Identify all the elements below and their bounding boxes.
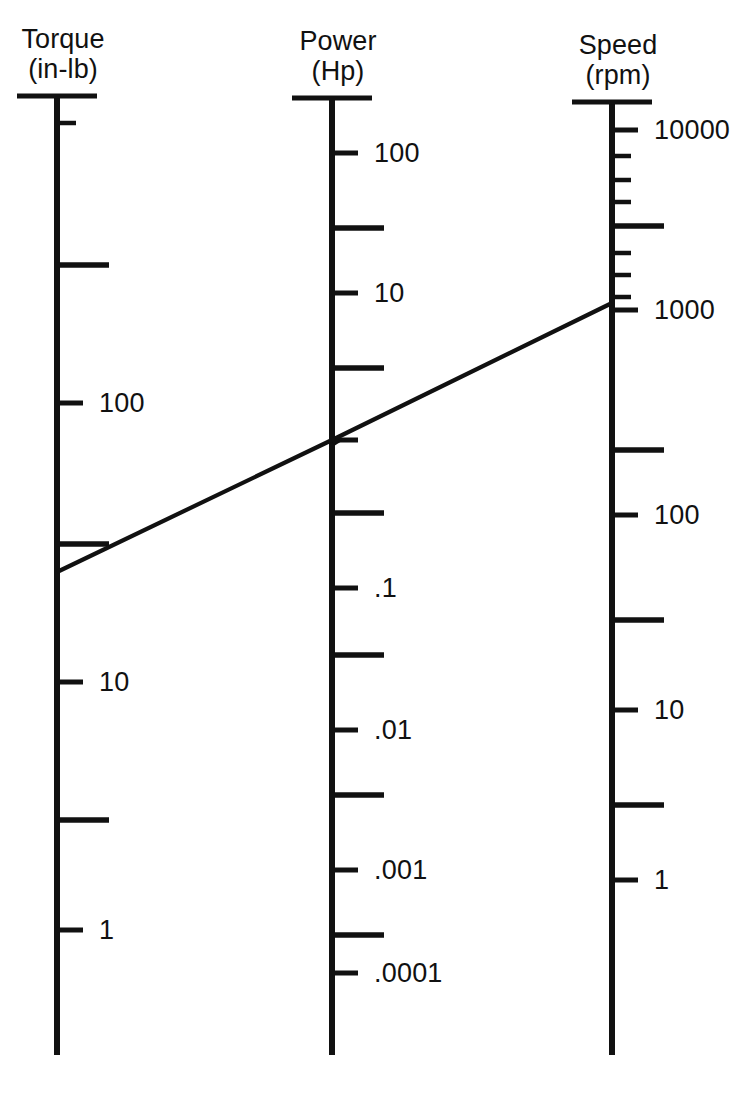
tick-label-torque-0: 100: [99, 388, 145, 419]
tick-label-speed-0: 10000: [654, 115, 730, 146]
scale-name-torque: Torque: [21, 24, 104, 54]
scale-title-torque: Torque (in-lb): [0, 24, 158, 84]
scale-name-power: Power: [299, 26, 376, 56]
tick-label-speed-3: 10: [654, 695, 684, 726]
tick-label-torque-2: 1: [99, 915, 114, 946]
tick-label-speed-4: 1: [654, 865, 669, 896]
scale-title-power: Power (Hp): [243, 26, 433, 86]
tick-label-power-1: 10: [374, 278, 404, 309]
scale-name-speed: Speed: [579, 30, 658, 60]
tick-label-power-3: .01: [374, 715, 412, 746]
nomogram-figure: Torque (in-lb) Power (Hp) Speed (rpm) 10…: [0, 0, 737, 1093]
tick-label-power-5: .0001: [374, 958, 443, 989]
tick-label-speed-2: 100: [654, 500, 700, 531]
tick-label-torque-1: 10: [99, 667, 129, 698]
scale-unit-power: (Hp): [243, 56, 433, 86]
scale-unit-speed: (rpm): [523, 60, 713, 90]
tick-label-speed-1: 1000: [654, 295, 715, 326]
tick-label-power-0: 100: [374, 138, 420, 169]
axes-group: [17, 96, 664, 1055]
scale-unit-torque: (in-lb): [0, 54, 158, 84]
tick-label-power-2: .1: [374, 573, 397, 604]
tick-label-power-4: .001: [374, 855, 427, 886]
scale-title-speed: Speed (rpm): [523, 30, 713, 90]
